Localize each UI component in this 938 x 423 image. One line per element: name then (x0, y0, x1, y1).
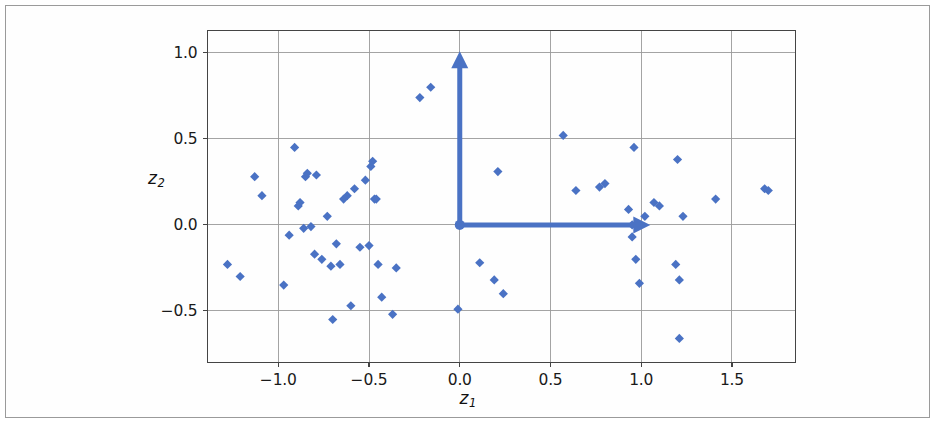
scatter-marker (285, 231, 294, 240)
scatter-marker (635, 279, 644, 288)
scatter-marker (711, 194, 720, 203)
scatter-marker (571, 186, 580, 195)
x-tick-label: 1.5 (720, 371, 744, 389)
scatter-marker (453, 305, 462, 314)
scatter-marker (355, 243, 364, 252)
plot-frame (208, 31, 796, 363)
scatter-marker (493, 167, 502, 176)
y-tick-label: 0.0 (173, 216, 197, 234)
scatter-marker (223, 260, 232, 269)
y-axis-title-text: z (148, 168, 157, 188)
scatter-marker (415, 93, 424, 102)
axes-spines (208, 31, 796, 363)
scatter-marker (675, 334, 684, 343)
scatter-marker (250, 172, 259, 181)
scatter-marker (346, 301, 355, 310)
data-points (223, 83, 773, 343)
scatter-marker (373, 260, 382, 269)
x-tick-label: 1.0 (629, 371, 653, 389)
x-axis-title: z1 (460, 388, 477, 410)
scatter-marker (312, 170, 321, 179)
scatter-marker (631, 255, 640, 264)
scatter-marker (257, 191, 266, 200)
scatter-marker (317, 255, 326, 264)
scatter-marker (306, 222, 315, 231)
y-tick-label: 0.5 (173, 130, 197, 148)
scatter-plot (0, 0, 938, 423)
scatter-marker (323, 212, 332, 221)
scatter-marker (372, 194, 381, 203)
scatter-marker (290, 143, 299, 152)
principal-axis-arrow-z1-head (633, 216, 650, 233)
scatter-marker (624, 205, 633, 214)
x-tick-label: −0.5 (351, 371, 388, 389)
scatter-marker (475, 258, 484, 267)
scatter-marker (426, 83, 435, 92)
scatter-marker (675, 275, 684, 284)
scatter-marker (377, 293, 386, 302)
scatter-marker (673, 155, 682, 164)
scatter-marker (332, 239, 341, 248)
scatter-marker (326, 262, 335, 271)
scatter-marker (364, 241, 373, 250)
scatter-marker (350, 184, 359, 193)
origin-marker (455, 220, 465, 230)
scatter-marker (279, 280, 288, 289)
scatter-marker (335, 260, 344, 269)
y-tick-label: 1.0 (173, 44, 197, 62)
y-axis-title-subscript: 2 (157, 176, 164, 190)
x-tick-label: 0.5 (538, 371, 562, 389)
x-tick-label: 0.0 (448, 371, 472, 389)
scatter-marker (671, 260, 680, 269)
axis-ticks (203, 53, 732, 367)
principal-axis-arrow-z2-head (451, 51, 468, 68)
scatter-marker (499, 289, 508, 298)
scatter-marker (678, 212, 687, 221)
y-tick-label: −0.5 (161, 302, 198, 320)
scatter-marker (310, 250, 319, 259)
figure-canvas: −1.0−0.50.00.51.01.5 −0.50.00.51.0 z1 z2 (0, 0, 938, 423)
scatter-marker (490, 275, 499, 284)
scatter-marker (629, 143, 638, 152)
grid-lines (208, 31, 796, 363)
scatter-marker (392, 263, 401, 272)
y-axis-title: z2 (148, 168, 165, 190)
scatter-marker (236, 272, 245, 281)
scatter-marker (628, 232, 637, 241)
x-tick-label: −1.0 (260, 371, 297, 389)
x-axis-title-subscript: 1 (469, 396, 476, 410)
scatter-marker (328, 315, 337, 324)
x-axis-title-text: z (460, 388, 469, 408)
